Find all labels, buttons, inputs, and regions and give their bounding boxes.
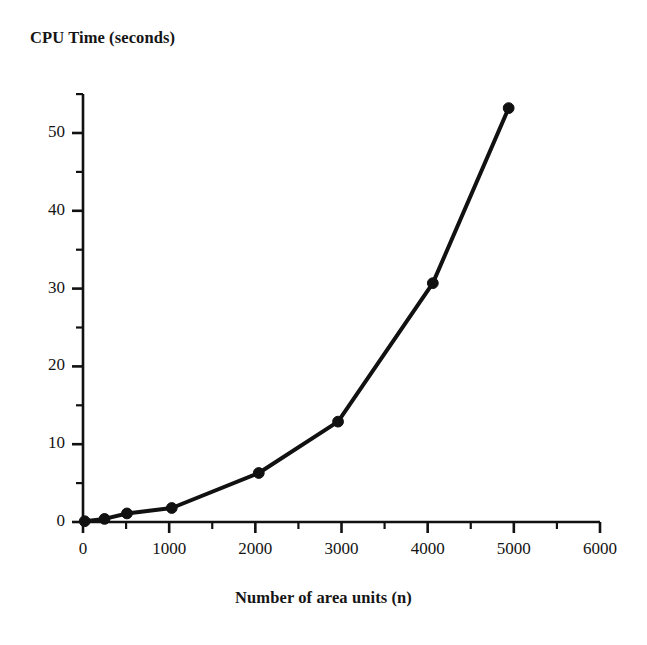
y-tick-label: 0: [19, 511, 65, 531]
x-axis-title: Number of area units (n): [0, 588, 647, 608]
data-point-marker: [99, 513, 110, 524]
data-line: [85, 108, 509, 521]
y-tick-label: 10: [19, 433, 65, 453]
x-tick-label: 4000: [393, 539, 463, 559]
data-point-marker: [503, 103, 514, 114]
data-point-marker: [166, 503, 177, 514]
data-point-marker: [427, 278, 438, 289]
y-axis-title: CPU Time (seconds): [30, 28, 175, 48]
data-point-marker: [122, 508, 133, 519]
y-tick-label: 40: [19, 200, 65, 220]
series-line: [85, 108, 509, 521]
x-tick-label: 5000: [479, 539, 549, 559]
x-major-ticks: [83, 522, 600, 533]
y-tick-label: 20: [19, 355, 65, 375]
data-point-marker: [333, 416, 344, 427]
y-tick-label: 50: [19, 122, 65, 142]
y-tick-label: 30: [19, 278, 65, 298]
x-tick-label: 1000: [134, 539, 204, 559]
x-tick-label: 6000: [565, 539, 635, 559]
x-tick-label: 0: [48, 539, 118, 559]
x-tick-label: 2000: [220, 539, 290, 559]
axis-lines: [83, 94, 600, 522]
data-point-marker: [79, 516, 90, 527]
chart-figure: CPU Time (seconds) Number of area units …: [0, 0, 647, 645]
data-markers: [79, 103, 514, 527]
x-tick-label: 3000: [307, 539, 377, 559]
data-point-marker: [253, 468, 264, 479]
